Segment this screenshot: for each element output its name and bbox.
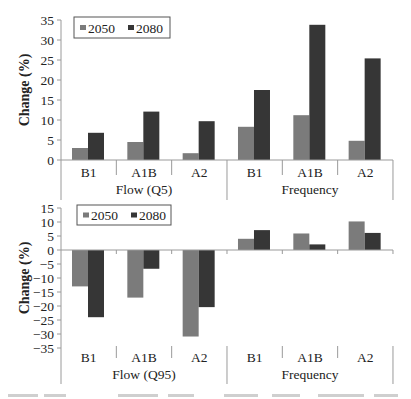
- y-axis-label: Change (%): [17, 241, 33, 314]
- x-category-label: A2: [357, 165, 374, 180]
- x-category-label: B1: [247, 350, 263, 365]
- bar-2050-a2: [183, 250, 199, 337]
- legend-label-2050: 2050: [91, 208, 118, 223]
- legend-swatch-2050: [80, 25, 86, 30]
- bar-2050-a1b: [127, 250, 143, 298]
- y-tick-label: 0: [47, 243, 54, 258]
- legend: 20502080: [77, 205, 171, 225]
- y-tick-label: −30: [33, 327, 54, 342]
- legend-swatch-2080: [131, 213, 137, 218]
- bar-2080-b1: [254, 230, 270, 250]
- y-tick-label: 5: [47, 133, 54, 148]
- y-tick-label: −25: [33, 313, 54, 328]
- bar-2050-a1b: [293, 233, 309, 250]
- y-tick-label: −15: [33, 285, 54, 300]
- bar-2080-b1: [88, 133, 104, 160]
- bar-2080-a1b: [309, 244, 325, 250]
- bar-2080-a2: [199, 250, 215, 307]
- x-category-label: A2: [357, 350, 374, 365]
- legend: 20502080: [74, 17, 170, 38]
- bar-2050-b1: [72, 250, 88, 286]
- legend-label-2050: 2050: [88, 21, 115, 36]
- bar-2050-b1: [72, 148, 88, 160]
- x-group-label: Flow (Q5): [116, 182, 173, 197]
- legend-swatch-2080: [128, 25, 134, 30]
- x-category-label: B1: [81, 165, 97, 180]
- bar-2050-a2: [349, 221, 365, 250]
- bar-2080-a2: [365, 233, 381, 250]
- x-category-label: A2: [191, 350, 208, 365]
- y-tick-label: −20: [33, 299, 54, 314]
- y-axis-label: Change (%): [17, 53, 33, 126]
- y-tick-label: 0: [47, 153, 54, 168]
- y-tick-label: −5: [40, 257, 55, 272]
- bar-2080-a2: [199, 121, 215, 160]
- y-tick-label: 10: [41, 215, 55, 230]
- bar-2080-a1b: [309, 25, 325, 160]
- y-tick-label: −35: [33, 341, 54, 356]
- x-category-label: B1: [81, 350, 97, 365]
- y-tick-label: 10: [41, 113, 55, 128]
- legend-label-2080: 2080: [136, 21, 163, 36]
- bar-2080-b1: [254, 90, 270, 160]
- x-category-label: A1B: [131, 350, 157, 365]
- x-group-label: Frequency: [281, 182, 338, 197]
- chart-canvas: 05101520253035Change (%)B1A1BA2B1A1BA2Fl…: [0, 0, 411, 399]
- bar-2080-a1b: [143, 250, 159, 269]
- y-tick-label: 15: [41, 93, 55, 108]
- bar-2050-b1: [238, 239, 254, 250]
- x-category-label: A1B: [297, 350, 323, 365]
- x-group-label: Frequency: [281, 367, 338, 382]
- y-tick-label: 5: [47, 229, 54, 244]
- x-category-label: A1B: [131, 165, 157, 180]
- cut-off-caption: [0, 391, 411, 399]
- bar-2050-a1b: [127, 142, 143, 160]
- y-tick-label: 35: [41, 13, 55, 28]
- figure: 05101520253035Change (%)B1A1BA2B1A1BA2Fl…: [0, 0, 411, 399]
- bar-2050-a1b: [293, 115, 309, 160]
- bar-2080-b1: [88, 250, 104, 317]
- y-tick-label: 20: [41, 73, 55, 88]
- y-tick-label: −10: [33, 271, 54, 286]
- legend-swatch-2050: [83, 213, 89, 218]
- x-category-label: B1: [247, 165, 263, 180]
- bar-2080-a2: [365, 58, 381, 160]
- y-tick-label: 25: [41, 53, 55, 68]
- chart-panel-bottom: 151050−5−10−15−20−25−30−35Change (%)B1A1…: [17, 201, 393, 385]
- y-tick-label: 15: [41, 201, 55, 216]
- chart-panel-top: 05101520253035Change (%)B1A1BA2B1A1BA2Fl…: [17, 13, 393, 201]
- y-tick-label: 30: [41, 33, 55, 48]
- bar-2050-a2: [349, 141, 365, 160]
- legend-label-2080: 2080: [139, 208, 166, 223]
- bar-2050-a2: [183, 153, 199, 160]
- bar-2080-a1b: [143, 112, 159, 160]
- x-category-label: A1B: [297, 165, 323, 180]
- x-category-label: A2: [191, 165, 208, 180]
- bar-2050-b1: [238, 127, 254, 160]
- x-group-label: Flow (Q95): [112, 367, 175, 382]
